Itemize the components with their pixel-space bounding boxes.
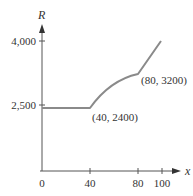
x-tick-label-0: 0 bbox=[39, 177, 45, 189]
annotation-80-3200: (80, 3200) bbox=[141, 74, 187, 87]
x-axis-label: x bbox=[184, 164, 191, 178]
y-tick-label-2500: 2,500 bbox=[11, 99, 36, 111]
x-tick-label-100: 100 bbox=[154, 177, 171, 189]
x-axis-arrow-icon bbox=[172, 168, 181, 174]
y-tick-label-4000: 4,000 bbox=[11, 35, 36, 47]
annotation-40-2400: (40, 2400) bbox=[92, 111, 138, 124]
x-tick-label-40: 40 bbox=[85, 177, 97, 189]
x-tick-label-80: 80 bbox=[133, 177, 145, 189]
chart: R x 4,000 2,500 0 40 80 100 (40, 2400) (… bbox=[0, 0, 193, 196]
y-axis-label: R bbox=[37, 8, 46, 22]
y-axis-arrow-icon bbox=[39, 24, 45, 33]
